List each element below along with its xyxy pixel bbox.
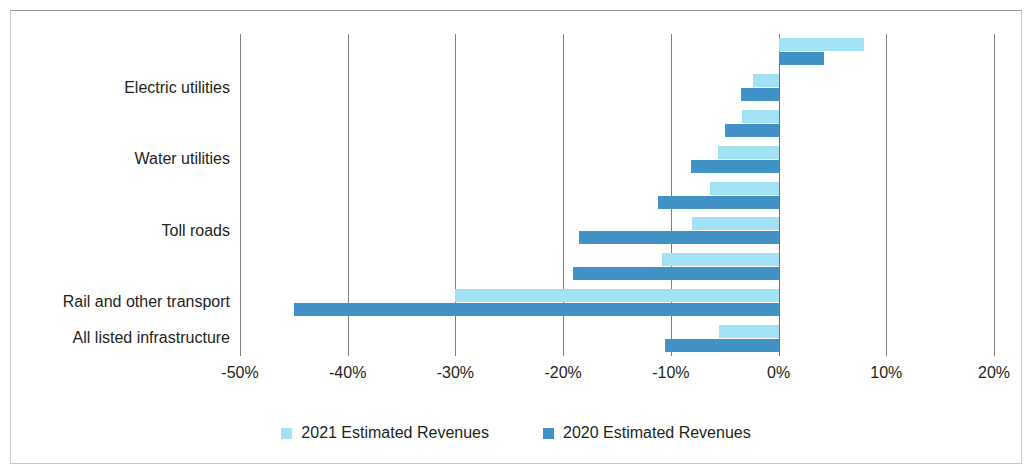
bar-2021-6: [662, 253, 778, 266]
bar-2020-0: [779, 52, 824, 65]
category-label-5: Toll roads: [162, 223, 230, 239]
bar-2021-4: [710, 182, 779, 195]
zero-axis-line: [779, 34, 780, 356]
legend-label: 2020 Estimated Revenues: [563, 424, 751, 442]
bar-2021-2: [742, 110, 779, 123]
x-tick-20: 20%: [978, 364, 1010, 382]
x-tick-10: 10%: [870, 364, 902, 382]
x-tick--40: -40%: [329, 364, 366, 382]
bar-2021-1: [753, 74, 779, 87]
x-tick--50: -50%: [221, 364, 258, 382]
legend-swatch-icon: [543, 428, 554, 439]
x-tick--30: -30%: [437, 364, 474, 382]
bar-2020-4: [658, 196, 779, 209]
bar-2020-7: [294, 303, 779, 316]
bar-2020-6: [573, 267, 779, 280]
category-label-8: All listed infrastructure: [73, 330, 230, 346]
category-label-3: Water utilities: [135, 151, 230, 167]
chart-figure: Electric utilitiesWater utilitiesToll ro…: [0, 0, 1032, 474]
bar-2021-8: [719, 325, 778, 338]
gridline-10: [886, 34, 887, 356]
x-axis-tick-labels: -50%-40%-30%-20%-10%0%10%20%: [240, 364, 994, 388]
x-tick--10: -10%: [652, 364, 689, 382]
x-tick-0: 0%: [767, 364, 790, 382]
bar-2021-7: [455, 289, 778, 302]
bar-2020-2: [725, 124, 779, 137]
bar-2021-3: [718, 146, 778, 159]
x-tick--20: -20%: [544, 364, 581, 382]
category-label-7: Rail and other transport: [63, 294, 230, 310]
legend-item-2020[interactable]: 2020 Estimated Revenues: [543, 424, 751, 442]
bar-2020-3: [691, 160, 778, 173]
top-rule: [10, 10, 1022, 11]
bar-2021-5: [692, 217, 778, 230]
bar-2020-1: [741, 88, 779, 101]
legend-swatch-icon: [281, 428, 292, 439]
bar-2020-8: [665, 339, 778, 352]
plot-area: [240, 34, 994, 356]
chart-legend: 2021 Estimated Revenues2020 Estimated Re…: [0, 424, 1032, 442]
gridline--50: [240, 34, 241, 356]
legend-item-2021[interactable]: 2021 Estimated Revenues: [281, 424, 489, 442]
y-axis-category-labels: Electric utilitiesWater utilitiesToll ro…: [0, 34, 230, 356]
category-label-1: Electric utilities: [124, 80, 230, 96]
gridline-20: [994, 34, 995, 356]
bar-2020-5: [579, 231, 778, 244]
legend-label: 2021 Estimated Revenues: [301, 424, 489, 442]
bar-2021-0: [779, 38, 864, 51]
